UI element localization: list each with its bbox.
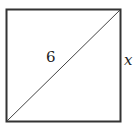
diagonal-line xyxy=(7,10,120,121)
square-diagram: 6 x xyxy=(0,0,139,130)
side-label: x xyxy=(124,51,133,69)
diagonal-label: 6 xyxy=(46,48,56,66)
